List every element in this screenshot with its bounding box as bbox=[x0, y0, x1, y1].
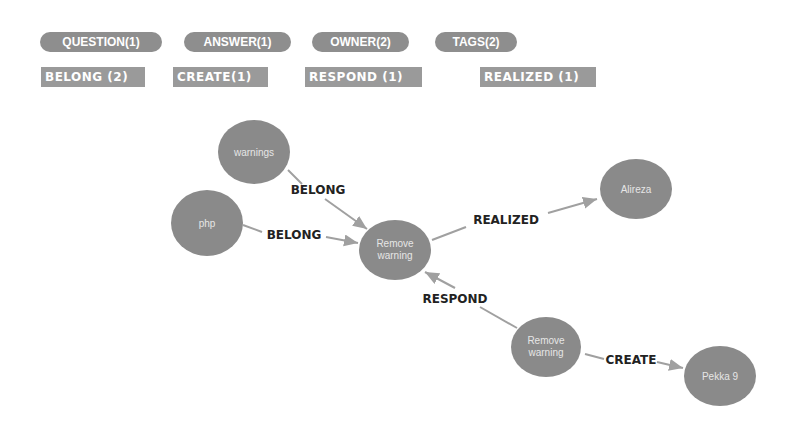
node-php[interactable]: php bbox=[171, 190, 243, 256]
edge-label: REALIZED bbox=[473, 213, 539, 227]
svg-text:warning: warning bbox=[527, 347, 563, 358]
edge-realized[interactable]: REALIZED bbox=[432, 199, 597, 240]
edge-label: CREATE bbox=[606, 353, 657, 367]
node-alireza[interactable]: Alireza bbox=[600, 159, 672, 219]
svg-text:warning: warning bbox=[376, 250, 412, 261]
node-warnings[interactable]: warnings bbox=[218, 120, 290, 184]
svg-text:Remove: Remove bbox=[376, 238, 414, 249]
edge-respond[interactable]: RESPOND bbox=[422, 272, 517, 328]
graph-canvas: BELONG BELONG REALIZED RESPOND CREATE wa… bbox=[0, 0, 803, 425]
edge-create[interactable]: CREATE bbox=[585, 353, 683, 368]
svg-text:Pekka 9: Pekka 9 bbox=[702, 371, 739, 382]
svg-text:php: php bbox=[199, 218, 216, 229]
edge-label: BELONG bbox=[267, 228, 322, 242]
svg-text:warnings: warnings bbox=[233, 147, 274, 158]
svg-text:Alireza: Alireza bbox=[621, 184, 652, 195]
edge-label: RESPOND bbox=[422, 292, 487, 306]
node-question-remove-warning[interactable]: Remove warning bbox=[359, 220, 431, 280]
edge-warnings-belong[interactable]: BELONG bbox=[288, 170, 367, 229]
node-pekka[interactable]: Pekka 9 bbox=[684, 346, 756, 406]
edge-label: BELONG bbox=[291, 183, 346, 197]
node-answer-remove-warning[interactable]: Remove warning bbox=[511, 317, 581, 377]
svg-text:Remove: Remove bbox=[527, 335, 565, 346]
edge-php-belong[interactable]: BELONG bbox=[243, 225, 358, 243]
